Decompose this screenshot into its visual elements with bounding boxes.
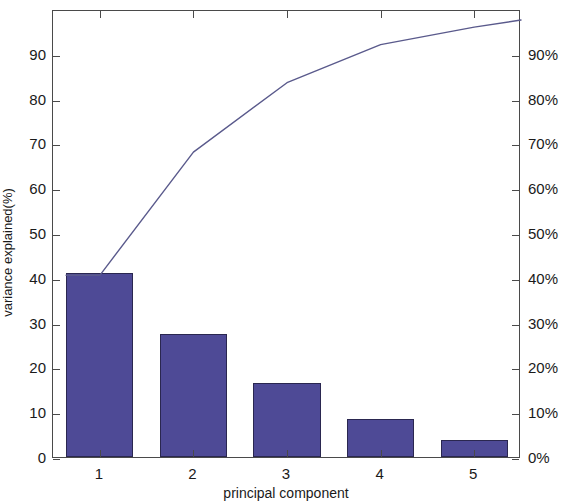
y2-tick-30% — [512, 325, 519, 326]
y2-tick-50% — [512, 235, 519, 236]
y2-tick-label-90%: 90% — [528, 47, 558, 62]
x-tick-3 — [287, 450, 288, 457]
x-tick-2 — [193, 450, 194, 457]
y-tick-80 — [53, 101, 60, 102]
x-tick-5 — [474, 450, 475, 457]
x-tick-top-2 — [193, 11, 194, 18]
x-tick-label-1: 1 — [79, 466, 119, 481]
y2-tick-0% — [512, 459, 519, 460]
y-tick-label-50: 50 — [6, 226, 46, 241]
y-axis-title-text: variance explained(%) — [0, 188, 15, 317]
y-tick-40 — [53, 280, 60, 281]
y2-tick-label-50%: 50% — [528, 226, 558, 241]
y-tick-label-10: 10 — [6, 405, 46, 420]
x-tick-top-5 — [474, 11, 475, 18]
y2-tick-label-60%: 60% — [528, 181, 558, 196]
y-tick-30 — [53, 325, 60, 326]
y-tick-10 — [53, 414, 60, 415]
x-tick-top-4 — [381, 11, 382, 18]
x-tick-label-5: 5 — [453, 466, 493, 481]
y-tick-label-0: 0 — [6, 450, 46, 465]
y-tick-label-90: 90 — [6, 47, 46, 62]
y-tick-90 — [53, 56, 60, 57]
x-axis-title: principal component — [52, 485, 520, 501]
y-tick-label-60: 60 — [6, 181, 46, 196]
cumulative-line-chart — [53, 11, 521, 459]
y2-tick-60% — [512, 190, 519, 191]
y2-tick-10% — [512, 414, 519, 415]
y2-tick-label-30%: 30% — [528, 316, 558, 331]
x-axis-title-text: principal component — [223, 485, 348, 501]
y-tick-50 — [53, 235, 60, 236]
y2-tick-20% — [512, 369, 519, 370]
y2-tick-label-20%: 20% — [528, 360, 558, 375]
y-axis-title: variance explained(%) — [0, 0, 16, 504]
y-tick-label-70: 70 — [6, 136, 46, 151]
x-tick-1 — [100, 450, 101, 457]
y-tick-70 — [53, 145, 60, 146]
y2-tick-90% — [512, 56, 519, 57]
y-tick-60 — [53, 190, 60, 191]
plot-inner — [53, 11, 519, 457]
y-tick-0 — [53, 459, 60, 460]
cumulative-line — [66, 20, 521, 275]
y2-tick-label-0%: 0% — [528, 450, 550, 465]
plot-area — [52, 10, 520, 458]
y2-tick-label-40%: 40% — [528, 271, 558, 286]
y2-tick-label-80%: 80% — [528, 92, 558, 107]
x-tick-label-3: 3 — [266, 466, 306, 481]
y-tick-label-40: 40 — [6, 271, 46, 286]
pareto-chart-figure: variance explained(%) 010203040506070809… — [0, 0, 578, 504]
y2-tick-label-10%: 10% — [528, 405, 558, 420]
x-tick-top-3 — [287, 11, 288, 18]
x-tick-label-2: 2 — [172, 466, 212, 481]
y-tick-20 — [53, 369, 60, 370]
y2-tick-70% — [512, 145, 519, 146]
x-tick-4 — [381, 450, 382, 457]
y-tick-label-30: 30 — [6, 316, 46, 331]
y2-tick-label-70%: 70% — [528, 136, 558, 151]
y-tick-label-80: 80 — [6, 92, 46, 107]
x-tick-top-1 — [100, 11, 101, 18]
y-tick-label-20: 20 — [6, 360, 46, 375]
y2-tick-80% — [512, 101, 519, 102]
y2-tick-40% — [512, 280, 519, 281]
x-tick-label-4: 4 — [360, 466, 400, 481]
